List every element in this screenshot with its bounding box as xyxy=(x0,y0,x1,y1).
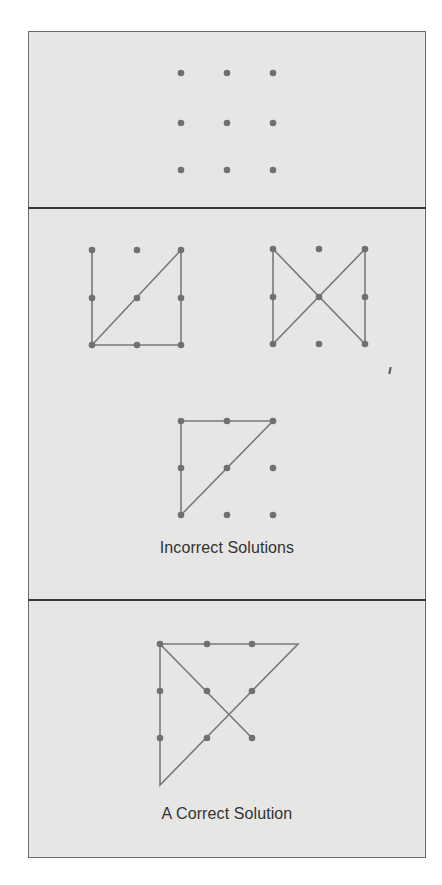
grid-dot xyxy=(89,247,96,254)
grid-dot xyxy=(270,341,277,348)
grid-dot xyxy=(178,120,185,127)
grid-dot xyxy=(270,465,277,472)
grid-dot xyxy=(270,294,277,301)
grid-dot xyxy=(178,247,185,254)
grid-dot xyxy=(224,120,231,127)
grid-dot xyxy=(178,295,185,302)
grid-dot xyxy=(224,465,231,472)
grid-dot xyxy=(249,735,256,742)
correct-solution-four-lines xyxy=(157,641,298,785)
grid-dot xyxy=(224,70,231,77)
grid-dot xyxy=(134,295,141,302)
grid-dot xyxy=(204,641,211,648)
grid-dot xyxy=(270,167,277,174)
grid-dot xyxy=(249,641,256,648)
grid-dot xyxy=(249,688,256,695)
grid-dot xyxy=(316,341,323,348)
grid-dot xyxy=(270,120,277,127)
grid-dot xyxy=(362,294,369,301)
grid-dot xyxy=(224,167,231,174)
grid-dot xyxy=(178,342,185,349)
solution-line-path xyxy=(160,644,298,785)
grid-dot xyxy=(89,342,96,349)
grid-dot xyxy=(224,512,231,519)
grid-dot xyxy=(178,167,185,174)
grid-dot xyxy=(270,246,277,253)
grid-dot xyxy=(316,294,323,301)
grid-dot xyxy=(157,688,164,695)
incorrect-solution-2-bowtie xyxy=(270,246,369,348)
grid-dot xyxy=(178,465,185,472)
grid-dot xyxy=(178,418,185,425)
grid-dot xyxy=(224,418,231,425)
incorrect-solution-3-triangle xyxy=(178,418,277,519)
grid-dot xyxy=(89,295,96,302)
grid-dot xyxy=(157,735,164,742)
caption-correct-solution: A Correct Solution xyxy=(28,805,426,823)
grid-dot xyxy=(270,418,277,425)
incorrect-solution-1 xyxy=(89,247,185,349)
grid-dot xyxy=(204,735,211,742)
grid-dot xyxy=(134,342,141,349)
grid-dot xyxy=(270,70,277,77)
grid-dot xyxy=(204,688,211,695)
grid-dot xyxy=(316,246,323,253)
problem-nine-dot-grid xyxy=(178,70,277,174)
caption-incorrect-solutions: Incorrect Solutions xyxy=(28,539,426,557)
grid-dot xyxy=(362,341,369,348)
grid-dot xyxy=(178,512,185,519)
grid-dot xyxy=(157,641,164,648)
grid-dot xyxy=(362,246,369,253)
grid-dot xyxy=(178,70,185,77)
nine-dot-puzzle-diagrams xyxy=(0,0,442,885)
grid-dot xyxy=(134,247,141,254)
grid-dot xyxy=(270,512,277,519)
